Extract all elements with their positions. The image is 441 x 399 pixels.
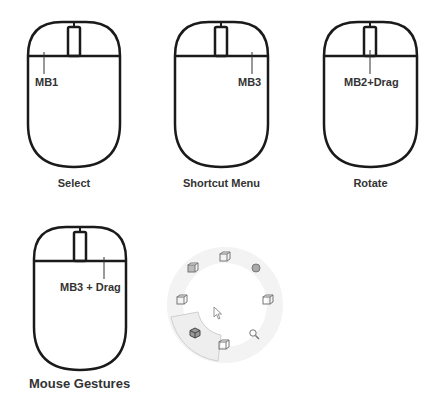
button-label-mb3: MB3 <box>238 76 261 88</box>
shaded-sphere-icon[interactable] <box>250 262 262 274</box>
caption-rotate: Rotate <box>322 177 419 189</box>
caption-mouse-gestures: Mouse Gestures <box>29 376 130 391</box>
panel-rotate: MB2+Drag Rotate <box>322 20 419 190</box>
view-cube-icon[interactable] <box>218 339 230 351</box>
panel-mouse-gestures: MB3 + Drag Mouse Gestures <box>32 225 128 395</box>
button-label-mb3-drag: MB3 + Drag <box>60 281 121 293</box>
mouse-outline-icon <box>26 20 122 170</box>
button-label-mb1: MB1 <box>35 76 58 88</box>
cursor-arrow-icon <box>213 306 223 320</box>
mouse-outline-icon <box>173 20 270 170</box>
gesture-radial-menu <box>160 240 290 370</box>
view-cube-icon[interactable] <box>176 294 188 306</box>
zoom-icon[interactable] <box>248 328 260 340</box>
mouse-outline-icon <box>322 20 419 170</box>
caption-select: Select <box>26 177 122 189</box>
mouse-outline-icon <box>32 225 128 375</box>
view-cube-icon[interactable] <box>219 251 231 263</box>
panel-shortcut-menu: MB3 Shortcut Menu <box>173 20 270 190</box>
view-cube-icon[interactable] <box>262 294 274 306</box>
panel-select: MB1 Select <box>26 20 122 190</box>
button-label-mb2-drag: MB2+Drag <box>344 76 399 88</box>
isometric-cube-icon[interactable] <box>189 327 201 339</box>
caption-shortcut-menu: Shortcut Menu <box>153 177 290 189</box>
shaded-cube-icon[interactable] <box>187 262 199 274</box>
